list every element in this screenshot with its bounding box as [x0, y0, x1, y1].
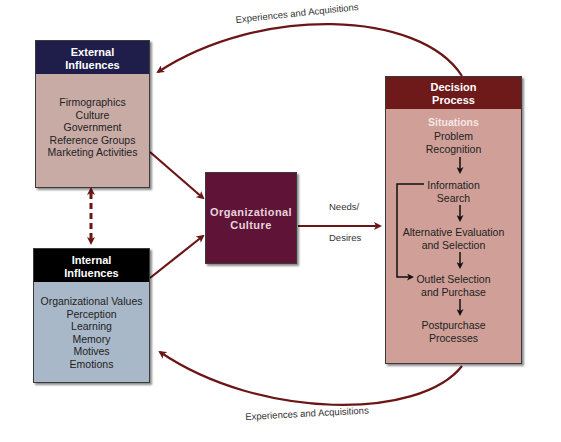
- decision-step-arrows: [0, 0, 561, 442]
- bypass-arrow: [397, 184, 424, 277]
